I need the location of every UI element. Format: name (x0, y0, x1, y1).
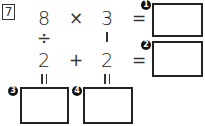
row1-equals: = (131, 8, 147, 28)
row2-equals: = (131, 50, 147, 70)
vertical-equals-right (104, 74, 110, 84)
row2-operand-a: 2 (36, 50, 52, 70)
problem-number: 7 (2, 4, 15, 20)
answer-box-3[interactable] (20, 87, 69, 124)
row2-operator: + (68, 50, 84, 70)
answer-box-2[interactable] (152, 41, 203, 77)
vertical-divide-sign: ÷ (36, 28, 52, 48)
answer-box-4[interactable] (83, 87, 133, 124)
answer-label-4: 4 (72, 86, 82, 96)
vertical-equals-left (41, 74, 47, 84)
answer-label-1: 1 (141, 0, 151, 10)
answer-box-1[interactable] (152, 3, 203, 37)
answer-label-2: 2 (141, 40, 151, 50)
row1-operator: × (68, 8, 84, 28)
vertical-minus-sign (106, 32, 108, 42)
row1-operand-a: 8 (36, 8, 52, 28)
row2-operand-b: 2 (99, 50, 115, 70)
row1-operand-b: 3 (99, 8, 115, 28)
answer-label-3: 3 (8, 86, 18, 96)
